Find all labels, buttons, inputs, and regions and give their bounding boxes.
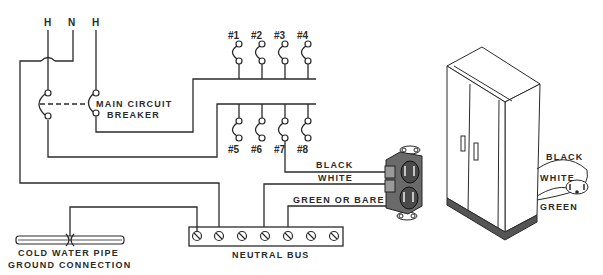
refrigerator-icon: [447, 47, 540, 240]
neutral-bus: [189, 227, 343, 246]
ground-wire-label: GREEN OR BARE: [293, 195, 385, 205]
main-breaker-label-line2: BREAKER: [107, 110, 160, 120]
circuit-5-label: #5: [228, 144, 240, 155]
main-circuit-breaker: [39, 90, 99, 119]
branch-breakers-top: [233, 41, 312, 79]
ground-label-line2: GROUND CONNECTION: [8, 260, 131, 270]
circuit-6-label: #6: [251, 144, 263, 155]
cord-green-label: GREEN: [540, 202, 578, 212]
cord-white-label: WHITE: [540, 173, 575, 183]
circuit-2-label: #2: [251, 30, 263, 41]
cord-black-label: BLACK: [546, 152, 584, 162]
circuit-4-label: #4: [297, 30, 309, 41]
circuit-7-label: #7: [274, 144, 286, 155]
ground-wire: [288, 206, 388, 227]
duplex-receptacle-icon: [385, 146, 422, 220]
hot-label-right: H: [92, 17, 99, 28]
hot-label-left: H: [44, 17, 51, 28]
circuit-8-label: #8: [297, 144, 309, 155]
main-breaker-label-line1: MAIN CIRCUIT: [96, 99, 172, 109]
white-wire-label: WHITE: [318, 173, 353, 183]
neutral-bus-label: NEUTRAL BUS: [232, 250, 310, 260]
circuit-3-label: #3: [274, 30, 286, 41]
hot-wire-left: [48, 30, 316, 157]
ground-electrode-wire: [70, 207, 197, 240]
branch-breakers-bottom: [233, 104, 312, 141]
wiring-diagram: H N H MAIN CIRCUIT BREAKER #1 #2 #3 #4 #…: [0, 0, 603, 275]
black-wire-label: BLACK: [316, 160, 354, 170]
circuit-1-label: #1: [228, 30, 240, 41]
neutral-label: N: [68, 17, 75, 28]
neutral-service-wire: [20, 30, 219, 227]
cold-water-pipe-icon: [16, 234, 124, 246]
ground-label-line1: COLD WATER PIPE: [18, 248, 119, 258]
